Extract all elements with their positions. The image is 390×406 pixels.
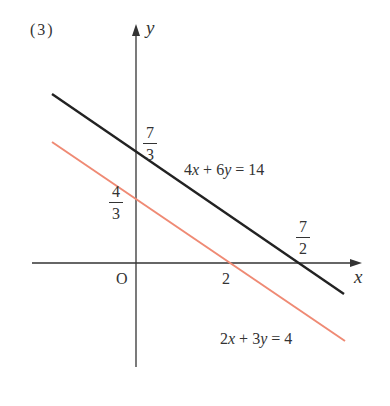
- coef: 2: [220, 330, 228, 347]
- denominator: 3: [146, 147, 154, 163]
- y-axis-label: y: [146, 18, 154, 37]
- fraction-bar: [109, 202, 123, 203]
- y-axis-arrow-icon: [132, 24, 140, 36]
- coef: 3: [252, 330, 260, 347]
- const: 4: [284, 330, 292, 347]
- fraction-bar: [143, 143, 157, 144]
- y-intercept-4-3: 4 3: [109, 184, 123, 222]
- equation-label-black: 4x + 6y = 14: [184, 162, 264, 178]
- op: =: [231, 161, 248, 178]
- coordinate-plane: [0, 0, 390, 406]
- numerator: 4: [112, 184, 120, 200]
- coef: 6: [216, 161, 224, 178]
- denominator: 2: [299, 241, 307, 257]
- equation-label-red: 2x + 3y = 4: [220, 331, 292, 347]
- line-4x-6y-14: [52, 94, 344, 294]
- numerator: 7: [146, 125, 154, 141]
- op: +: [235, 330, 252, 347]
- origin-label: O: [116, 271, 128, 287]
- op: +: [199, 161, 216, 178]
- numerator: 7: [299, 219, 307, 235]
- denominator: 3: [112, 206, 120, 222]
- fraction-bar: [296, 237, 310, 238]
- x-tick-2: 2: [222, 271, 230, 287]
- y-intercept-7-3: 7 3: [143, 125, 157, 163]
- problem-label: (3): [30, 22, 55, 38]
- x-axis-label: x: [354, 267, 362, 286]
- op: =: [267, 330, 284, 347]
- const: 14: [248, 161, 264, 178]
- coef: 4: [184, 161, 192, 178]
- x-intercept-7-2: 7 2: [296, 219, 310, 257]
